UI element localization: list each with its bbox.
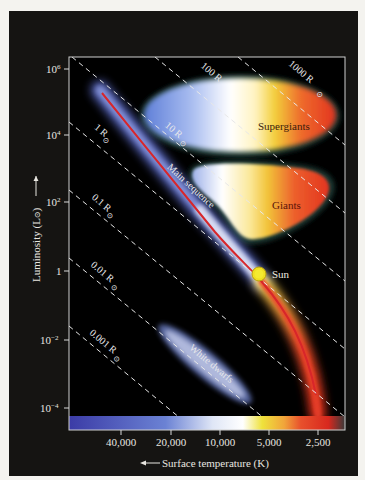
x-tick-label: 2,500 <box>306 436 331 448</box>
temperature-colorbar <box>69 416 345 430</box>
y-tick-label: 104 <box>46 129 61 141</box>
x-tick-label: 10,000 <box>205 436 236 448</box>
arrow-head-icon <box>140 461 146 466</box>
x-tick-label: 20,000 <box>156 436 187 448</box>
y-axis-labels: 106 104 102 1 10−2 10−4 <box>40 63 62 414</box>
x-axis-labels: 40,000 20,000 10,000 5,000 2,500 <box>106 436 331 448</box>
label-giants: Giants <box>272 199 301 211</box>
y-tick-label: 102 <box>46 196 61 208</box>
y-tick-label: 10−2 <box>40 334 59 346</box>
sun-marker <box>252 267 266 281</box>
y-tick-label: 10−4 <box>40 402 59 414</box>
x-tick-label: 40,000 <box>106 436 137 448</box>
x-axis-ticks <box>121 430 318 435</box>
svg-text:Luminosity (L⊙): Luminosity (L⊙) <box>30 207 43 282</box>
svg-text:Surface temperature (K): Surface temperature (K) <box>162 457 269 470</box>
y-tick-label: 1 <box>56 265 62 277</box>
y-axis-ticks <box>64 69 69 408</box>
hr-diagram: 1000 R⊙ 100 R 10 R⊙ 1 R⊙ 0.1 R⊙ 0.01 R⊙ … <box>0 0 365 480</box>
x-axis-title: Surface temperature (K) <box>140 457 269 470</box>
label-supergiants: Supergiants <box>258 120 310 132</box>
y-tick-label: 106 <box>46 63 61 75</box>
arrow-head-icon <box>34 176 39 181</box>
x-tick-label: 5,000 <box>257 436 282 448</box>
y-axis-title: Luminosity (L⊙) <box>30 176 43 282</box>
label-sun: Sun <box>272 268 290 280</box>
